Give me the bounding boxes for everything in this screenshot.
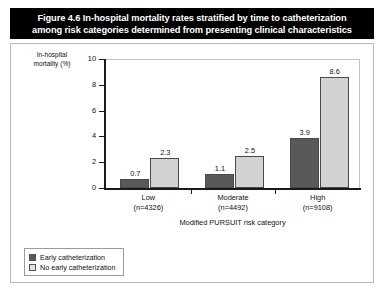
legend: Early catheterization No early catheteri…: [24, 248, 124, 276]
plot-area: 0.72.31.12.53.98.6: [106, 59, 360, 188]
y-tick-label-2: 2: [76, 157, 96, 166]
legend-swatch-early-icon: [29, 254, 36, 261]
bar-value-high-early: 3.9: [288, 128, 322, 137]
bar-group-low: 0.72.3: [120, 59, 180, 188]
y-tick-10: [99, 59, 105, 60]
y-tick-label-8: 8: [76, 80, 96, 89]
x-category-count: (n=9108): [275, 203, 361, 213]
y-tick-label-10: 10: [76, 54, 96, 63]
legend-item-no-early[interactable]: No early catheterization: [29, 262, 116, 272]
x-category-name: Moderate: [190, 193, 276, 203]
bar-value-high-no-early: 8.6: [318, 67, 352, 76]
y-tick-label-6: 6: [76, 106, 96, 115]
bar-group-high: 3.98.6: [290, 59, 350, 188]
bar-value-low-early: 0.7: [118, 169, 152, 178]
figure-title-bar: Figure 4.6 In-hospital mortality rates s…: [10, 8, 374, 39]
y-tick-label-4: 4: [76, 131, 96, 140]
bar-moderate-no-early[interactable]: [235, 156, 264, 188]
bar-value-moderate-early: 1.1: [203, 164, 237, 173]
bar-moderate-early[interactable]: [205, 174, 234, 188]
x-category-count: (n=4326): [105, 203, 191, 213]
bar-value-moderate-no-early: 2.5: [233, 146, 267, 155]
x-category-moderate: Moderate(n=4492): [190, 193, 276, 213]
bar-low-no-early[interactable]: [150, 158, 179, 188]
legend-label-early: Early catheterization: [40, 253, 105, 262]
y-tick-8: [99, 85, 105, 86]
bar-value-low-no-early: 2.3: [148, 148, 182, 157]
legend-swatch-no-early-icon: [29, 264, 36, 271]
y-tick-0: [99, 188, 105, 189]
y-tick-label-0: 0: [76, 183, 96, 192]
x-category-low: Low(n=4326): [105, 193, 191, 213]
figure-title-line-2: among risk categories determined from pr…: [32, 24, 352, 36]
x-category-high: High(n=9108): [275, 193, 361, 213]
bar-low-early[interactable]: [120, 179, 149, 188]
x-category-name: Low: [105, 193, 191, 203]
legend-label-no-early: No early catheterization: [40, 263, 116, 272]
x-category-name: High: [275, 193, 361, 203]
bar-high-early[interactable]: [290, 138, 319, 188]
bar-high-no-early[interactable]: [320, 77, 349, 188]
y-tick-2: [99, 162, 105, 163]
x-axis-title: Modified PURSUIT risk category: [105, 218, 360, 227]
bar-group-moderate: 1.12.5: [205, 59, 265, 188]
x-category-count: (n=4492): [190, 203, 276, 213]
figure-title-line-1: Figure 4.6 In-hospital mortality rates s…: [37, 12, 346, 24]
y-tick-6: [99, 111, 105, 112]
x-axis-line: [104, 188, 361, 190]
y-tick-4: [99, 136, 105, 137]
legend-item-early[interactable]: Early catheterization: [29, 252, 116, 262]
